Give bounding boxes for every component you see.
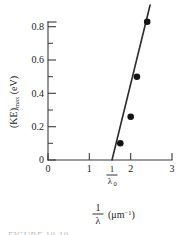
data-point bbox=[117, 140, 124, 147]
y-axis-label: (KE)max (eV) bbox=[8, 76, 20, 128]
chart-canvas: (KE)max (eV) 0 0.2 0.4 0.6 bbox=[0, 0, 190, 235]
x-axis-label: 1 λ (μm−1) bbox=[93, 202, 135, 226]
threshold-label: 1 λ 0 bbox=[107, 164, 118, 187]
svg-text:(KE)max (eV): (KE)max (eV) bbox=[8, 76, 20, 128]
x-axis-label-numerator: 1 bbox=[96, 202, 101, 213]
y-axis-label-units: (eV) bbox=[8, 76, 20, 94]
y-tick-label-1: 0.2 bbox=[32, 121, 45, 132]
y-tick-label-4: 0.8 bbox=[32, 21, 45, 32]
x-axis-major-ticks bbox=[48, 153, 172, 160]
y-axis-label-subscript: max bbox=[13, 96, 20, 108]
fit-line bbox=[112, 5, 150, 160]
y-tick-label-0: 0 bbox=[39, 154, 44, 165]
data-point bbox=[127, 113, 134, 120]
y-axis-major-ticks bbox=[48, 27, 56, 160]
threshold-numerator: 1 bbox=[110, 164, 115, 174]
y-tick-label-3: 0.6 bbox=[32, 54, 45, 65]
y-axis-tick-labels: 0 0.2 0.4 0.6 0.8 bbox=[32, 21, 45, 165]
y-axis-label-main: (KE) bbox=[8, 108, 20, 128]
x-tick-label-3: 3 bbox=[170, 163, 175, 174]
photoelectric-figure: (KE)max (eV) 0 0.2 0.4 0.6 bbox=[0, 0, 190, 235]
data-points bbox=[117, 18, 151, 146]
x-tick-label-2: 2 bbox=[128, 163, 133, 174]
x-axis-label-units: (μm−1) bbox=[108, 209, 135, 221]
x-tick-label-1: 1 bbox=[87, 163, 92, 174]
x-axis-label-denominator: λ bbox=[96, 215, 101, 226]
threshold-denominator: λ bbox=[108, 176, 113, 186]
figure-caption-partial: FIGURE 10-10 bbox=[8, 231, 128, 235]
data-point bbox=[134, 73, 141, 80]
threshold-denominator-subscript: 0 bbox=[114, 180, 117, 187]
x-tick-label-0: 0 bbox=[46, 163, 51, 174]
y-tick-label-2: 0.4 bbox=[32, 88, 45, 99]
data-point bbox=[144, 18, 151, 25]
